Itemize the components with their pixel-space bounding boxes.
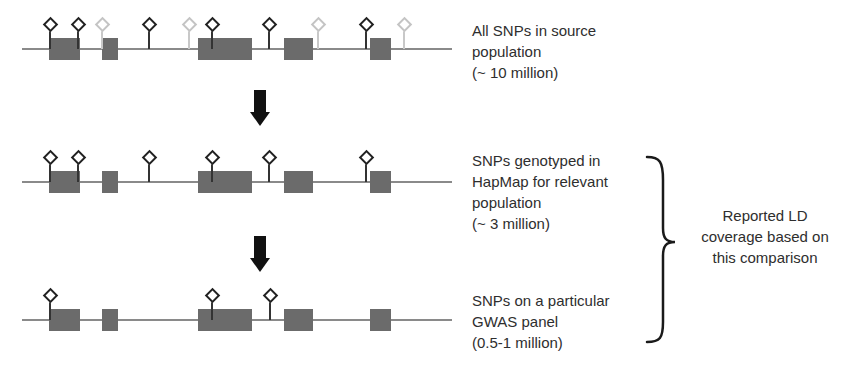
label-hapmap: SNPs genotyped in HapMap for relevant po… [472,150,608,234]
exon-block [102,309,118,331]
exon-block [284,38,313,60]
snp-marker-icon [183,19,195,49]
snp-marker-icon [360,152,372,182]
track-gwas-panel [0,285,460,345]
snp-marker-icon [143,152,155,182]
label-gwas-panel: SNPs on a particular GWAS panel (0.5-1 m… [472,290,610,353]
label-source-population: All SNPs in source population (~ 10 mill… [472,20,596,83]
label-line: (~ 3 million) [472,213,608,234]
snp-marker-icon [143,19,155,49]
exon-block [370,309,391,331]
snp-marker-icon [206,290,218,320]
snp-marker-icon [360,19,372,49]
summary-line: coverage based on [690,226,840,247]
snp-marker-icon [44,19,56,49]
snp-marker-icon [96,19,108,49]
snp-marker-icon [206,19,218,49]
label-line: HapMap for relevant [472,171,608,192]
label-line: SNPs genotyped in [472,150,608,171]
snp-marker-icon [264,290,276,320]
snp-marker-icon [72,19,84,49]
label-line: population [472,41,596,62]
snp-marker-icon [72,152,84,182]
summary-line: Reported LD [690,205,840,226]
down-arrow-icon [250,236,270,274]
down-arrow-icon [250,90,270,128]
exon-block [284,309,313,331]
label-line: SNPs on a particular [472,290,610,311]
exon-block [102,171,118,193]
label-line: GWAS panel [472,311,610,332]
label-line: population [472,192,608,213]
track-hapmap [0,147,460,207]
snp-marker-icon [44,290,56,320]
snp-marker-icon [263,152,275,182]
curly-brace-icon [640,150,690,350]
exon-block [370,38,391,60]
snp-marker-icon [312,19,324,49]
exon-block [370,171,391,193]
label-line: (0.5-1 million) [472,332,610,353]
snp-marker-icon [44,152,56,182]
snp-marker-icon [398,19,410,49]
snp-marker-icon [206,152,218,182]
snp-marker-icon [263,19,275,49]
ld-coverage-summary: Reported LD coverage based on this compa… [690,205,840,268]
label-line: (~ 10 million) [472,62,596,83]
label-line: All SNPs in source [472,20,596,41]
track-source-population [0,14,460,74]
exon-block [284,171,313,193]
summary-line: this comparison [690,247,840,268]
